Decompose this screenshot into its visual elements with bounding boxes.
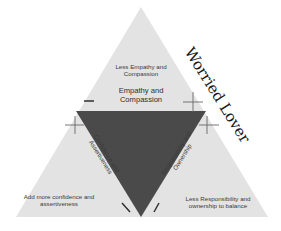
- top-note: Less Empathy and Compassion: [108, 63, 174, 77]
- top-edge-label: Empathy and Compassion: [107, 87, 175, 104]
- triangle-diagram: Less Empathy and Compassion Empathy and …: [0, 0, 281, 231]
- left-note: Add more confidence and assertiveness: [22, 193, 96, 207]
- right-note: Less Responsibility and ownership to bal…: [176, 195, 260, 209]
